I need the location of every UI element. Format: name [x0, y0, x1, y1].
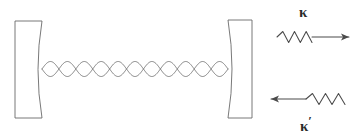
left-curved-mirror	[15, 21, 42, 118]
standing-wave-mode	[42, 62, 228, 77]
standing-wave-lower-envelope	[42, 62, 228, 77]
standing-wave-upper-envelope	[42, 62, 228, 77]
kappa-label: κ	[299, 5, 307, 20]
kappa-prime-in-zigzag-icon	[306, 94, 345, 105]
kappa-prime-in-arrow-group	[271, 94, 345, 105]
right-mirror-group	[228, 20, 252, 118]
optical-cavity-figure: κ κ′	[0, 0, 358, 140]
kappa-out-arrow-group	[277, 32, 349, 43]
kappa-prime-mark: ′	[308, 113, 312, 128]
right-curved-mirror	[228, 20, 252, 118]
left-mirror-group	[15, 21, 42, 118]
kappa-out-zigzag-icon	[277, 32, 312, 43]
kappa-prime-label: κ′	[300, 119, 312, 134]
